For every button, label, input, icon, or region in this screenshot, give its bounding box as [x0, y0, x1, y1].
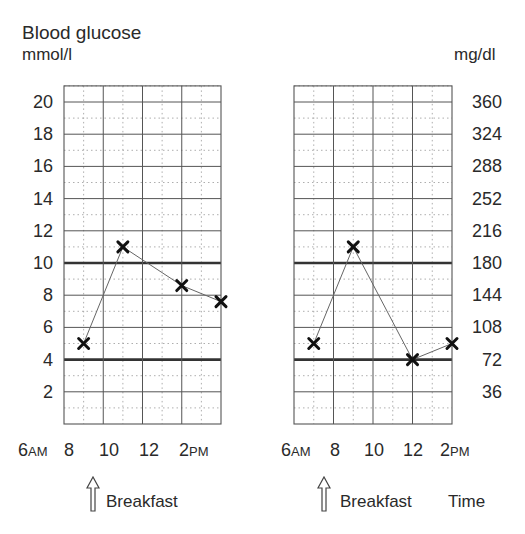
y-tick-label-mgdl: 180 [452, 254, 502, 272]
x-tick-label: 6AM [18, 441, 48, 461]
y-tick-label-mmol: 12 [13, 222, 53, 240]
y-tick-label-mgdl: 288 [452, 157, 502, 175]
x-tick-label: 12 [403, 441, 423, 459]
y-tick-label-mmol: 10 [13, 254, 53, 272]
y-tick-label-mgdl: 108 [452, 318, 502, 336]
x-tick-label: 6AM [281, 441, 311, 461]
y-tick-label-mgdl: 252 [452, 190, 502, 208]
y-tick-label-mgdl: 216 [452, 222, 502, 240]
x-tick-label: 10 [364, 441, 384, 459]
x-tick-label: 8 [330, 441, 340, 459]
x-tick-label: 12 [139, 441, 159, 459]
x-axis-title: Time [448, 492, 485, 512]
y-tick-label-mmol: 14 [13, 190, 53, 208]
x-tick-label: 2PM [440, 441, 470, 461]
x-tick-label: 10 [99, 441, 119, 459]
y-tick-label-mmol: 4 [13, 351, 53, 369]
y-tick-label-mmol: 8 [13, 286, 53, 304]
x-tick-label: 2PM [179, 441, 209, 461]
x-tick-label: 8 [64, 441, 74, 459]
y-tick-label-mmol: 2 [13, 383, 53, 401]
y-tick-label-mmol: 18 [13, 125, 53, 143]
y-tick-label-mgdl: 144 [452, 286, 502, 304]
y-tick-label-mmol: 16 [13, 157, 53, 175]
breakfast-label-right: Breakfast [340, 492, 412, 512]
y-tick-label-mmol: 20 [13, 93, 53, 111]
y-tick-label-mmol: 6 [13, 318, 53, 336]
y-tick-label-mgdl: 72 [452, 351, 502, 369]
up-arrow-icon [86, 476, 100, 512]
breakfast-label-left: Breakfast [106, 492, 178, 512]
up-arrow-icon [317, 476, 331, 512]
y-tick-label-mgdl: 360 [452, 93, 502, 111]
y-tick-label-mgdl: 36 [452, 383, 502, 401]
y-tick-label-mgdl: 324 [452, 125, 502, 143]
